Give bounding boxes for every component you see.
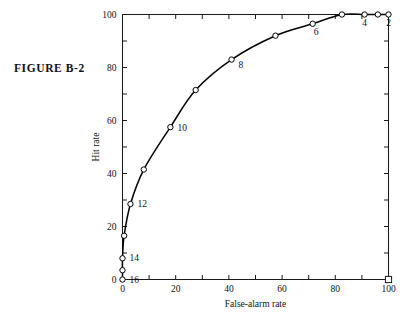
extra-markers [385,276,391,282]
y-tick-label: 20 [107,222,117,232]
data-point-marker [120,256,125,261]
y-tick-label: 40 [107,169,117,179]
roc-plot-svg: 020406080100 020406080100 False-alarm ra… [0,0,407,316]
data-point-label: 2 [386,18,391,28]
y-tick-label: 80 [107,63,117,73]
right-axis-ticks [384,15,389,280]
data-point-marker [141,167,146,172]
data-point-label: 10 [177,123,187,133]
x-tick-label: 20 [171,284,181,294]
data-point-marker [339,12,344,17]
data-point-marker [273,33,278,38]
y-axis-title: Hit rate [91,133,101,162]
x-axis-tick-labels: 020406080100 [120,284,396,294]
roc-data-points [120,12,391,282]
data-point-label: 16 [130,275,140,285]
x-tick-label: 0 [120,284,125,294]
axis-frame [123,15,389,280]
data-point-label: 4 [362,18,367,28]
data-point-marker [362,12,367,17]
data-point-label: 8 [239,60,244,70]
x-tick-label: 60 [277,284,287,294]
roc-plot: 020406080100 020406080100 False-alarm ra… [0,0,407,316]
data-point-marker [121,233,126,238]
data-point-marker [386,12,391,17]
x-axis-title: False-alarm rate [225,299,286,309]
corner-square [385,276,391,282]
data-point-marker [168,124,173,129]
data-point-label: 12 [137,199,147,209]
data-point-label: 14 [130,253,140,263]
data-point-marker [310,21,315,26]
y-tick-label: 100 [102,10,117,20]
figure-b-2: FIGURE B-2 020406080100 020406080100 Fal… [0,0,407,316]
y-tick-label: 0 [112,275,117,285]
roc-curve-line [122,14,388,280]
y-axis-tick-labels: 020406080100 [102,10,117,285]
x-axis-ticks [123,275,389,280]
data-point-marker [128,201,133,206]
data-point-marker [229,57,234,62]
x-tick-label: 40 [224,284,234,294]
data-point-marker [193,87,198,92]
top-axis-ticks [123,15,389,20]
data-point-marker [375,12,380,17]
data-point-marker [120,268,125,273]
y-tick-label: 60 [107,116,117,126]
data-point-marker [120,277,125,282]
x-tick-label: 80 [331,284,341,294]
data-point-label: 6 [314,27,319,37]
x-tick-label: 100 [381,284,396,294]
roc-point-labels: 161412108642 [130,18,392,285]
